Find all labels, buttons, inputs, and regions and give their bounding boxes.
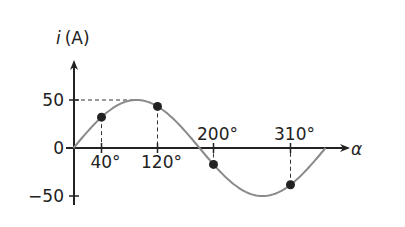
data-point (286, 180, 295, 189)
svg-text:0: 0 (53, 138, 64, 158)
data-point (209, 160, 218, 169)
marked-points: 40°120°200°310° (90, 102, 315, 189)
svg-text:−50: −50 (28, 186, 64, 206)
y-axis-label: i(A) (56, 28, 90, 48)
svg-text:50: 50 (42, 90, 64, 110)
data-point (153, 102, 162, 111)
x-tick-label: 40° (90, 152, 120, 172)
x-tick-label: 310° (274, 124, 315, 144)
sine-current-chart: i(A) α 50 0 −50 40°120°200°310° (0, 0, 405, 227)
data-point (97, 113, 106, 122)
x-tick-label: 200° (197, 124, 238, 144)
x-tick-label: 120° (141, 152, 182, 172)
x-axis-label: α (351, 139, 362, 159)
